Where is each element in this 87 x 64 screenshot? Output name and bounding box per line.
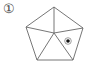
bullseye-dot-icon bbox=[65, 38, 72, 45]
pentagon-diagram bbox=[0, 0, 87, 64]
